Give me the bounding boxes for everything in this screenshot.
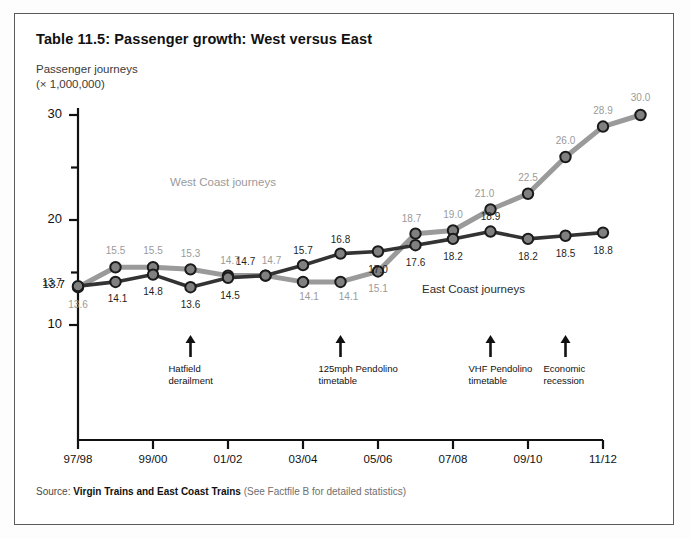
annotation-arrow-head bbox=[186, 335, 196, 343]
annotation-label-line2: derailment bbox=[169, 375, 213, 387]
data-point-marker bbox=[485, 226, 495, 236]
data-point-marker bbox=[298, 260, 308, 270]
annotation-label: VHF Pendolinotimetable bbox=[469, 363, 533, 387]
series-label-west-coast: West Coast journeys bbox=[170, 176, 276, 188]
data-point-marker bbox=[148, 269, 158, 279]
source-note: Source: Virgin Trains and East Coast Tra… bbox=[36, 486, 406, 497]
data-point-marker bbox=[110, 262, 120, 272]
data-point-label: 14.1 bbox=[98, 293, 138, 304]
data-point-label: 14.8 bbox=[133, 286, 173, 297]
data-point-label: 18.2 bbox=[508, 251, 548, 262]
data-point-marker bbox=[448, 234, 458, 244]
data-point-marker bbox=[410, 228, 420, 238]
data-point-marker bbox=[260, 270, 270, 280]
source-organisations: Virgin Trains and East Coast Trains bbox=[73, 486, 241, 497]
data-point-label: 16.8 bbox=[321, 234, 361, 245]
annotation-label-line1: Economic bbox=[544, 363, 586, 375]
data-point-label: 15.1 bbox=[358, 283, 398, 294]
annotation-label-line2: timetable bbox=[469, 375, 533, 387]
x-tick-label: 99/00 bbox=[123, 453, 183, 465]
x-tick-label: 07/08 bbox=[423, 453, 483, 465]
data-point-marker bbox=[185, 264, 195, 274]
data-point-marker bbox=[223, 273, 233, 283]
series-label-east-coast: East Coast journeys bbox=[422, 283, 525, 295]
data-point-label: 17.6 bbox=[396, 257, 436, 268]
y-tick-label: 30 bbox=[28, 106, 62, 121]
x-tick-label: 05/06 bbox=[348, 453, 408, 465]
data-point-label: 30.0 bbox=[621, 92, 661, 103]
data-point-label: 17.0 bbox=[358, 264, 398, 275]
data-point-label: 26.0 bbox=[546, 135, 586, 146]
data-point-label: 19.0 bbox=[433, 209, 473, 220]
annotation-label-line2: timetable bbox=[319, 375, 398, 387]
data-point-label: 14.5 bbox=[210, 290, 250, 301]
source-lead: Source: bbox=[36, 486, 70, 497]
data-point-label: 13.6 bbox=[171, 299, 211, 310]
data-point-label: 21.0 bbox=[465, 188, 505, 199]
annotation-arrow-head bbox=[561, 335, 571, 343]
data-point-label: 13.6 bbox=[58, 299, 98, 310]
data-point-label: 28.9 bbox=[583, 105, 623, 116]
data-point-marker bbox=[598, 227, 608, 237]
annotation-label-line1: VHF Pendolino bbox=[469, 363, 533, 375]
data-point-label: 18.2 bbox=[433, 251, 473, 262]
data-point-marker bbox=[298, 277, 308, 287]
source-reference: (See Factfile B for detailed statistics) bbox=[244, 486, 406, 497]
data-point-marker bbox=[335, 248, 345, 258]
data-point-marker bbox=[560, 231, 570, 241]
annotation-arrow-head bbox=[486, 335, 496, 343]
y-tick-label: 20 bbox=[28, 211, 62, 226]
data-point-marker bbox=[185, 282, 195, 292]
data-point-marker bbox=[335, 277, 345, 287]
x-tick-label: 11/12 bbox=[573, 453, 633, 465]
data-point-label: 18.8 bbox=[583, 245, 623, 256]
annotation-label: Hatfieldderailment bbox=[169, 363, 213, 387]
x-tick-label: 09/10 bbox=[498, 453, 558, 465]
data-point-marker bbox=[373, 246, 383, 256]
y-tick-label: 10 bbox=[28, 316, 62, 331]
data-point-label: 14.7 bbox=[226, 256, 266, 267]
data-point-marker bbox=[73, 281, 83, 291]
annotation-label-line1: 125mph Pendolino bbox=[319, 363, 398, 375]
data-point-label: 15.5 bbox=[133, 245, 173, 256]
data-point-label: 14.1 bbox=[289, 291, 329, 302]
data-point-marker bbox=[560, 152, 570, 162]
data-point-label: 18.5 bbox=[546, 248, 586, 259]
data-point-label: 22.5 bbox=[508, 172, 548, 183]
data-point-label: 15.3 bbox=[171, 248, 211, 259]
x-tick-label: 97/98 bbox=[48, 453, 108, 465]
annotation-arrows-layer bbox=[186, 335, 571, 357]
x-tick-label: 03/04 bbox=[273, 453, 333, 465]
data-point-marker bbox=[635, 110, 645, 120]
x-tick-label: 01/02 bbox=[198, 453, 258, 465]
annotation-label: Economicrecession bbox=[544, 363, 586, 387]
data-point-marker bbox=[523, 234, 533, 244]
annotation-label-line2: recession bbox=[544, 375, 586, 387]
data-point-marker bbox=[523, 189, 533, 199]
data-point-marker bbox=[598, 121, 608, 131]
data-point-marker bbox=[110, 277, 120, 287]
annotation-arrow-head bbox=[336, 335, 346, 343]
data-point-label: 18.7 bbox=[392, 213, 432, 224]
annotation-label-line1: Hatfield bbox=[169, 363, 213, 375]
data-point-label: 18.9 bbox=[471, 211, 511, 222]
data-point-label: 13.7 bbox=[32, 277, 72, 288]
data-point-label: 15.5 bbox=[96, 245, 136, 256]
data-point-label: 15.7 bbox=[283, 245, 323, 256]
figure-root: Table 11.5: Passenger growth: West versu… bbox=[0, 0, 690, 539]
annotation-label: 125mph Pendolinotimetable bbox=[319, 363, 398, 387]
data-point-marker bbox=[410, 240, 420, 250]
